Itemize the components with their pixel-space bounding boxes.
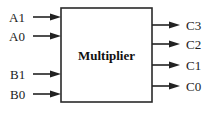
output-c2: C2 bbox=[152, 37, 201, 52]
arrow-right-icon bbox=[50, 91, 61, 98]
output-c3: C3 bbox=[152, 18, 201, 33]
output-label-c3: C3 bbox=[186, 18, 201, 33]
output-label-c1: C1 bbox=[186, 58, 201, 73]
input-a0: A0 bbox=[9, 29, 61, 44]
arrow-right-icon bbox=[169, 83, 180, 90]
input-label-a1: A1 bbox=[9, 10, 25, 25]
input-b0: B0 bbox=[10, 87, 61, 102]
input-label-b0: B0 bbox=[10, 87, 25, 102]
multiplier-diagram: Multiplier A1 A0 B1 B0 C3 C2 C1 C0 bbox=[0, 0, 214, 114]
input-a1: A1 bbox=[9, 10, 61, 25]
input-b1: B1 bbox=[10, 67, 61, 82]
arrow-right-icon bbox=[169, 41, 180, 48]
arrow-right-icon bbox=[50, 71, 61, 78]
input-label-a0: A0 bbox=[9, 29, 25, 44]
arrow-right-icon bbox=[169, 62, 180, 69]
arrow-right-icon bbox=[50, 33, 61, 40]
output-c1: C1 bbox=[152, 58, 201, 73]
output-label-c2: C2 bbox=[186, 37, 201, 52]
output-label-c0: C0 bbox=[186, 79, 201, 94]
input-label-b1: B1 bbox=[10, 67, 25, 82]
output-c0: C0 bbox=[152, 79, 201, 94]
arrow-right-icon bbox=[50, 14, 61, 21]
arrow-right-icon bbox=[169, 22, 180, 29]
block-label: Multiplier bbox=[78, 48, 135, 63]
